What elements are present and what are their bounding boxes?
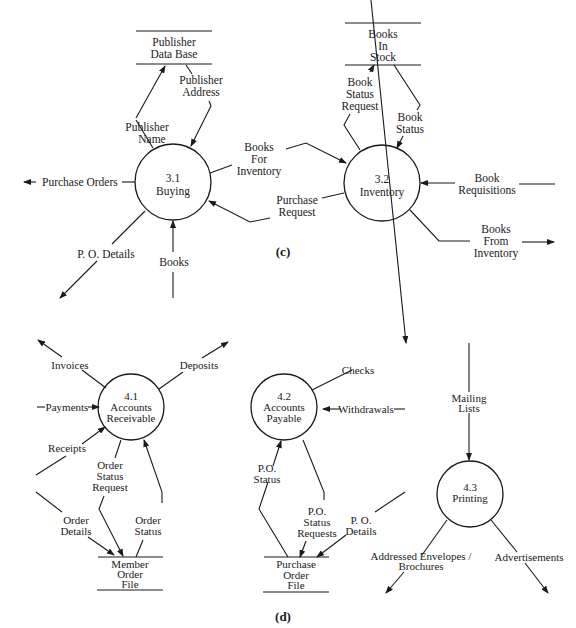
flow-label: Status bbox=[254, 473, 281, 485]
flow-label: For bbox=[251, 153, 267, 165]
flow-label: Requisitions bbox=[458, 184, 516, 197]
process-name: Buying bbox=[156, 185, 190, 198]
flow-label: Books bbox=[481, 223, 511, 235]
data-flow-diagram: Publisher Data Base Books In Stock Publi… bbox=[0, 0, 576, 628]
store-label: Books bbox=[368, 28, 398, 40]
data-store-member-order-file[interactable]: Member Order File bbox=[97, 557, 163, 590]
figure-caption-d: (d) bbox=[275, 609, 291, 624]
flow-label: Details bbox=[345, 525, 376, 537]
flow-po-status-requests[interactable]: P.O. Status Requests bbox=[297, 440, 337, 557]
flow-label: Details bbox=[60, 525, 91, 537]
store-label: Stock bbox=[370, 51, 396, 63]
store-label: Data Base bbox=[151, 48, 198, 60]
flow-label: From bbox=[484, 235, 509, 247]
flow-label: Requests bbox=[297, 527, 337, 539]
store-label: File bbox=[287, 579, 304, 591]
store-label: File bbox=[121, 578, 138, 590]
flow-po-details[interactable]: P. O. Details bbox=[60, 211, 145, 298]
flow-withdrawals[interactable]: Withdrawals bbox=[323, 403, 405, 415]
flow-label: Deposits bbox=[180, 359, 219, 371]
flow-label: Invoices bbox=[51, 359, 88, 371]
flow-label: Brochures bbox=[398, 560, 443, 572]
flow-order-status[interactable]: Order Status bbox=[135, 440, 162, 557]
store-label: Publisher bbox=[152, 36, 196, 48]
flow-label: Request bbox=[92, 481, 127, 493]
flow-label: Books bbox=[244, 141, 274, 153]
process-4-3-printing[interactable]: 4.3 Printing bbox=[437, 461, 503, 527]
flow-order-status-request[interactable]: Order Status Request bbox=[92, 440, 127, 556]
flow-publisher-address[interactable]: Publisher Address bbox=[179, 65, 223, 146]
flow-label: Publisher bbox=[125, 121, 169, 133]
figure-caption-c: (c) bbox=[276, 244, 290, 259]
flow-label: Name bbox=[138, 133, 165, 145]
flow-po-status[interactable]: P.O. Status bbox=[254, 441, 288, 557]
flow-label: Advertisements bbox=[494, 551, 563, 563]
flow-label: Publisher bbox=[179, 74, 223, 86]
figure-c: Publisher Data Base Books In Stock Publi… bbox=[24, 23, 555, 298]
data-store-publisher-data-base[interactable]: Publisher Data Base bbox=[136, 31, 212, 64]
process-name: Inventory bbox=[360, 186, 405, 199]
flow-label: Request bbox=[341, 100, 379, 113]
flow-label: Payments bbox=[46, 401, 89, 413]
flow-deposits[interactable]: Deposits bbox=[159, 342, 228, 389]
flow-label: Book bbox=[398, 111, 423, 123]
flow-label: Books bbox=[159, 256, 189, 268]
process-4-2-accounts-payable[interactable]: 4.2 Accounts Payable bbox=[251, 374, 317, 440]
data-store-purchase-order-file[interactable]: Purchase Order File bbox=[263, 557, 329, 592]
flow-book-status-request[interactable]: Book Status Request bbox=[341, 65, 379, 150]
flow-label: Status bbox=[396, 123, 425, 135]
flow-label: Withdrawals bbox=[338, 403, 394, 415]
flow-label: Status bbox=[346, 88, 375, 100]
flow-label: Book bbox=[475, 172, 500, 184]
flow-label: Purchase bbox=[276, 194, 318, 206]
flow-advertisements[interactable]: Advertisements bbox=[491, 520, 564, 593]
process-id: 3.2 bbox=[375, 173, 390, 185]
flow-label: Inventory bbox=[237, 165, 282, 178]
flow-purchase-orders[interactable]: Purchase Orders bbox=[24, 176, 135, 188]
flow-payments[interactable]: Payments bbox=[37, 401, 99, 413]
flow-receipts[interactable]: Receipts bbox=[36, 427, 105, 475]
data-store-books-in-stock[interactable]: Books In Stock bbox=[345, 23, 421, 65]
process-3-2-inventory[interactable]: 3.2 Inventory bbox=[344, 145, 420, 221]
figure-d: 4.1 Accounts Receivable Invoices Deposit… bbox=[36, 0, 564, 624]
flow-purchase-request[interactable]: Purchase Request bbox=[209, 193, 344, 222]
process-3-1-buying[interactable]: 3.1 Buying bbox=[135, 144, 211, 220]
flow-book-requisitions[interactable]: Book Requisitions bbox=[421, 172, 555, 197]
flow-books-for-inventory[interactable]: Books For Inventory bbox=[210, 141, 346, 178]
flow-book-status[interactable]: Book Status bbox=[394, 65, 425, 148]
flow-label: P. O. Details bbox=[77, 248, 135, 260]
flow-mailing-lists[interactable]: Mailing Lists bbox=[452, 343, 487, 460]
flow-label: Book bbox=[348, 76, 373, 88]
process-name: Receivable bbox=[107, 412, 156, 424]
flow-label: Lists bbox=[458, 402, 479, 414]
flow-books-from-inventory[interactable]: Books From Inventory bbox=[410, 210, 554, 260]
flow-label: Address bbox=[182, 86, 220, 98]
flow-addressed-envelopes-brochures[interactable]: Addressed Envelopes / Brochures bbox=[371, 520, 473, 593]
flow-label: Purchase Orders bbox=[42, 176, 118, 188]
flow-label: Inventory bbox=[474, 247, 519, 260]
flow-books[interactable]: Books bbox=[159, 221, 189, 298]
process-name: Payable bbox=[267, 412, 302, 424]
flow-publisher-name[interactable]: Publisher Name bbox=[125, 66, 169, 148]
flow-invoices[interactable]: Invoices bbox=[38, 340, 106, 388]
flow-label: Request bbox=[278, 206, 316, 219]
process-id: 3.1 bbox=[166, 172, 181, 184]
flow-label: Checks bbox=[342, 364, 374, 376]
process-name: Printing bbox=[452, 492, 488, 504]
flow-label: Receipts bbox=[48, 442, 86, 454]
flow-label: Status bbox=[135, 525, 162, 537]
process-4-1-accounts-receivable[interactable]: 4.1 Accounts Receivable bbox=[98, 374, 164, 440]
